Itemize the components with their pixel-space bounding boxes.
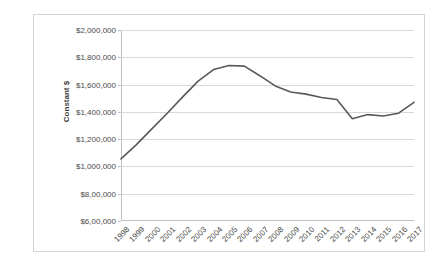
y-axis-tick-label: $2,000,000 [58,26,116,35]
plot-area [121,30,414,221]
y-axis-tick-label: $8,00,000 [58,189,116,198]
y-axis-tick-label: $1,200,000 [58,135,116,144]
chart-frame: Constant $ $6,00,000$8,00,000$1,000,000$… [33,14,425,252]
y-axis-tick-label: $6,00,000 [58,217,116,226]
y-axis-tick-label: $1,400,000 [58,107,116,116]
y-axis-tick-label: $1,600,000 [58,80,116,89]
y-axis-tick-labels: $6,00,000$8,00,000$1,000,000$1,200,000$1… [58,15,116,251]
data-series-line [121,30,414,221]
x-axis-tick-labels: 1998199920002001200220032004200520062007… [121,221,414,261]
y-axis-tick-label: $1,800,000 [58,53,116,62]
y-axis-tick-label: $1,000,000 [58,162,116,171]
